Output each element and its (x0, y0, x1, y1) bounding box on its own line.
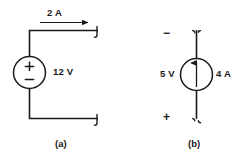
current-label-b: 4 A (216, 69, 231, 79)
plus-sign-b: + (163, 111, 170, 123)
voltage-label-b: 5 V (160, 69, 175, 79)
top-wire-a (30, 31, 98, 57)
terminal-b-top-hook (193, 31, 195, 33)
minus-sign-b: − (163, 27, 170, 39)
terminal-b-top (198, 31, 200, 33)
terminal-a-bottom (95, 115, 97, 126)
current-label-a: 2 A (47, 8, 62, 18)
caption-b: (b) (188, 139, 200, 149)
voltage-source-symbol-a (14, 57, 46, 89)
caption-a: (a) (55, 139, 67, 149)
panel-b-circuit (181, 31, 213, 123)
terminal-a-top (95, 27, 97, 38)
terminal-b-bottom (193, 119, 201, 123)
bottom-wire-a (30, 89, 98, 119)
circuit-figure: 2 A 12 V (a) 5 V 4 A − + (b) (0, 0, 247, 161)
voltage-label-a: 12 V (53, 67, 73, 77)
circuit-drawing (0, 0, 247, 161)
